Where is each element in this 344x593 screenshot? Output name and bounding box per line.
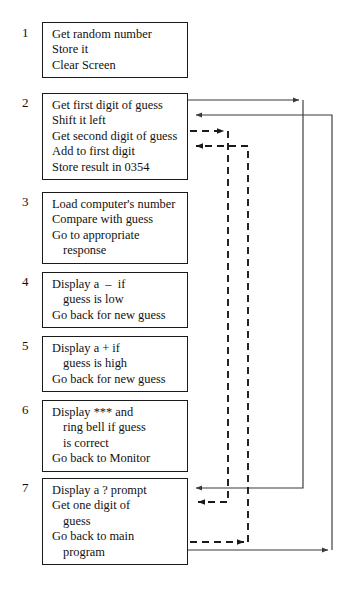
step-line: guess — [52, 514, 187, 529]
step-box-3: Load computer's number Compare with gues… — [42, 192, 188, 264]
step-index-2: 2 — [22, 96, 36, 109]
step-line: Display a – if — [52, 277, 187, 292]
step-line: Go back for new guess — [52, 372, 187, 387]
step-line: Display a ? prompt — [52, 483, 187, 498]
step-box-5: Display a + if guess is high Go back for… — [42, 336, 188, 392]
connector-call-second-digit-routine — [190, 131, 228, 502]
step-line: program — [52, 545, 187, 560]
flow-diagram-page: 1 Get random number Store it Clear Scree… — [0, 0, 344, 593]
step-line: guess is high — [52, 356, 187, 371]
connector-call-prompt-routine — [188, 100, 303, 488]
step-line: Load computer's number — [52, 197, 187, 212]
step-box-1: Get random number Store it Clear Screen — [42, 22, 188, 78]
step-line: Store it — [52, 42, 187, 57]
step-box-7: Display a ? prompt Get one digit of gues… — [42, 478, 188, 565]
step-index-1: 1 — [22, 26, 36, 39]
step-index-4: 4 — [22, 275, 36, 288]
step-index-5: 5 — [22, 339, 36, 352]
step-line: Compare with guess — [52, 212, 187, 227]
step-line: Display *** and — [52, 405, 187, 420]
step-box-2: Get first digit of guess Shift it left G… — [42, 93, 188, 180]
connector-return-from-prompt-routine — [188, 115, 332, 550]
step-line: Get second digit of guess — [52, 129, 187, 144]
step-index-3: 3 — [22, 195, 36, 208]
step-index-6: 6 — [22, 403, 36, 416]
step-line: Go back to main — [52, 529, 187, 544]
step-line: Get first digit of guess — [52, 98, 187, 113]
step-line: Store result in 0354 — [52, 160, 187, 175]
step-line: Get random number — [52, 27, 187, 42]
connector-return-second-digit-routine — [190, 146, 248, 542]
step-index-7: 7 — [22, 481, 36, 494]
step-line: Shift it left — [52, 113, 187, 128]
step-line: Get one digit of — [52, 498, 187, 513]
step-line: Go back for new guess — [52, 308, 187, 323]
step-line: guess is low — [52, 292, 187, 307]
step-line: Add to first digit — [52, 144, 187, 159]
step-line: Go to appropriate — [52, 228, 187, 243]
step-box-4: Display a – if guess is low Go back for … — [42, 272, 188, 328]
step-line: response — [52, 243, 187, 258]
step-box-6: Display *** and ring bell if guess is co… — [42, 400, 188, 472]
step-line: is correct — [52, 436, 187, 451]
step-line: ring bell if guess — [52, 420, 187, 435]
step-line: Go back to Monitor — [52, 451, 187, 466]
step-line: Display a + if — [52, 341, 187, 356]
step-line: Clear Screen — [52, 58, 187, 73]
